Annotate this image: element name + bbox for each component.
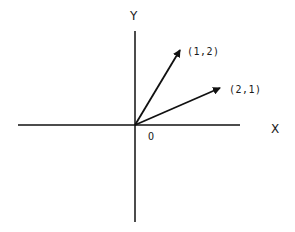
vector-1-2-arrow	[135, 50, 180, 125]
vector-diagram: Y X O (1,2) (2,1)	[0, 0, 295, 232]
origin-label: O	[148, 131, 154, 142]
y-axis-label: Y	[129, 9, 138, 23]
vector-1-2-label: (1,2)	[187, 46, 220, 57]
vector-2-1-label: (2,1)	[229, 84, 262, 95]
x-axis-label: X	[271, 122, 279, 136]
vector-2-1-arrow	[135, 88, 220, 125]
